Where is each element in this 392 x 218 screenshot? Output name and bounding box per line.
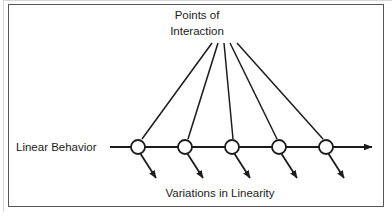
interaction-node-2[interactable] [178,140,192,154]
interaction-node-3[interactable] [225,140,239,154]
variation-arrow-3 [234,153,250,178]
interaction-node-5[interactable] [319,140,333,154]
variation-arrow-4 [281,153,297,178]
linear-behavior-label: Linear Behavior [16,140,97,154]
leader-line-5 [237,43,323,139]
points-of-interaction-title-line-1: Points of [1,8,392,22]
variation-arrow-2 [187,153,203,178]
points-of-interaction-title-line-2: Interaction [1,24,392,38]
variation-arrow-1 [140,153,156,178]
figure-root: Points of Interaction Linear Behavior Va… [0,0,392,218]
leader-line-4 [230,43,277,139]
variation-arrows-group [140,153,344,178]
leader-line-2 [188,43,218,139]
interaction-node-4[interactable] [272,140,286,154]
leader-lines-group [142,43,323,139]
interaction-node-1[interactable] [131,140,145,154]
leader-line-3 [224,43,233,139]
leader-line-1 [142,43,212,139]
variation-arrow-5 [328,153,344,178]
variations-in-linearity-label: Variations in Linearity [24,186,392,200]
